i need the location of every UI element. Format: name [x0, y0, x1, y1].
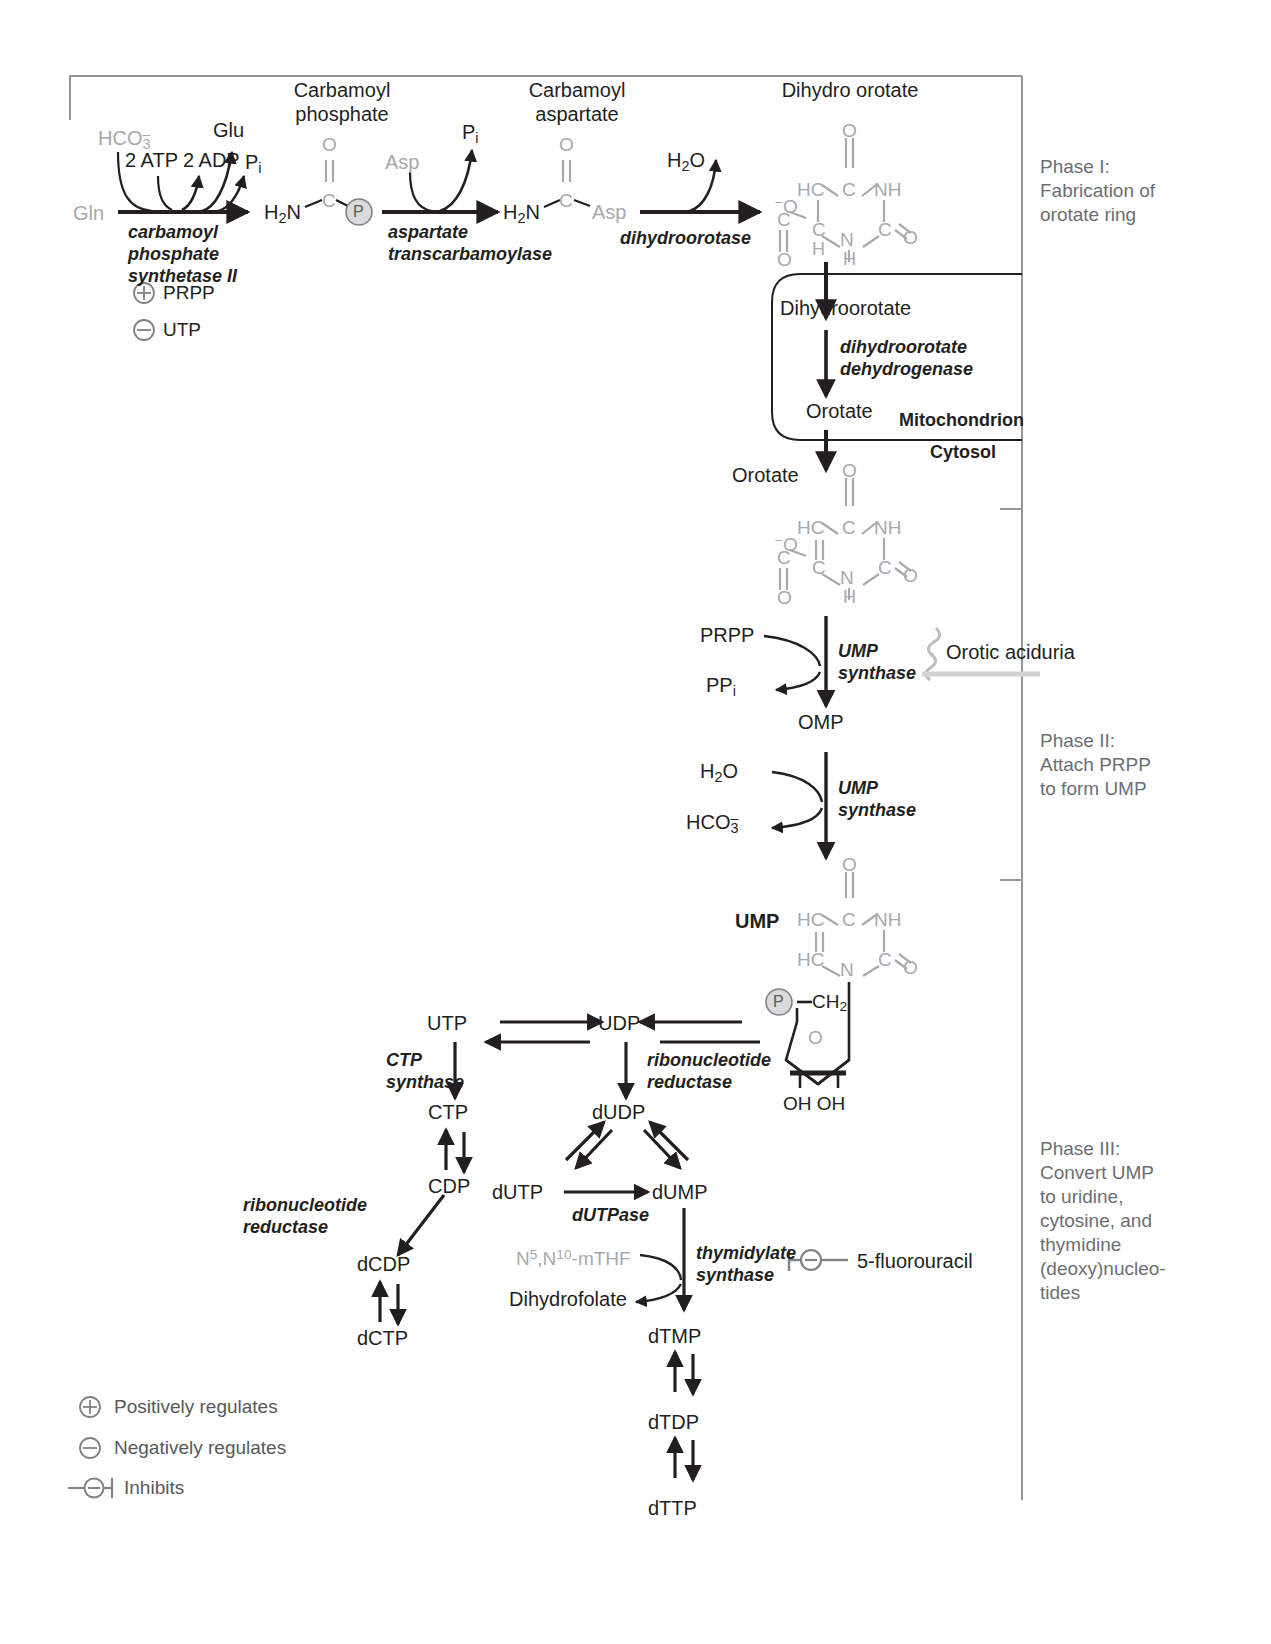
- oro-o-right: O: [903, 564, 918, 587]
- dho-c5: C: [812, 218, 826, 241]
- orotic-aciduria-label: Orotic aciduria: [946, 640, 1075, 664]
- legend-plus-circle-icon: [80, 1397, 100, 1417]
- asp-structure-label: Asp: [592, 200, 626, 224]
- ump-hc5: HC: [797, 908, 824, 931]
- oro-c2: C: [842, 516, 856, 539]
- ump-label: UMP: [735, 909, 779, 933]
- dttp-node: dTTP: [648, 1496, 697, 1520]
- phosphate-letter-1: P: [353, 202, 364, 222]
- dihydro-orotate-title: Dihydro orotate: [755, 78, 945, 102]
- phase-dividers: [1000, 509, 1022, 880]
- structure-o-2: O: [559, 133, 574, 156]
- pi-label-2: Pi: [462, 120, 479, 147]
- regulator-prpp-label: PRPP: [163, 281, 215, 304]
- pyrimidine-synthesis-diagram: Carbamoyl phosphate Carbamoyl aspartate …: [0, 0, 1271, 1644]
- ribose-hydroxyls: OH OH: [783, 1092, 845, 1115]
- oro-hc: HC: [797, 516, 824, 539]
- ump-synthase-1-arrow: [764, 616, 826, 706]
- dho-h5: H: [812, 239, 825, 261]
- oro-nh: NH: [874, 516, 901, 539]
- water-in-label-2: H2O: [700, 759, 738, 786]
- two-atp-label: 2 ATP: [125, 148, 178, 172]
- bicarbonate-out-label: HCO3: [686, 810, 738, 837]
- structure-c-1: C: [322, 189, 336, 212]
- cdp-node: CDP: [428, 1174, 470, 1198]
- dho-nh: NH: [874, 178, 901, 201]
- ump-synthase-2-arrow: [772, 752, 826, 858]
- utp-node: UTP: [427, 1011, 467, 1035]
- prpp-in-label: PRPP: [700, 623, 754, 647]
- dho-h1: H: [843, 249, 856, 271]
- water-out-label-1: H2O: [667, 148, 705, 175]
- oro-carboxyl-c: C: [777, 546, 791, 569]
- structure-o-1: O: [322, 133, 337, 156]
- legend-minus-circle-icon: [80, 1438, 100, 1458]
- carbamoyl-aspartate-title: Carbamoyl aspartate: [512, 78, 642, 127]
- mito-dihydroorotate-label: Dihydroorotate: [780, 296, 911, 320]
- carbamoyl-phosphate-title: Carbamoyl phosphate: [277, 78, 407, 127]
- phase-2-label: Phase II: Attach PRPP to form UMP: [1040, 729, 1151, 801]
- dho-carboxyl-c: C: [777, 208, 791, 231]
- oro-h1: H: [843, 587, 856, 609]
- dcdp-dctp-equilibrium: [380, 1282, 398, 1324]
- cytosol-label: Cytosol: [930, 442, 996, 464]
- aspartate-transcarbamoylase-enzyme: aspartate transcarbamoylase: [388, 222, 552, 266]
- dump-node: dUMP: [652, 1180, 708, 1204]
- omp-label: OMP: [798, 710, 844, 734]
- dtmp-dtdp-equilibrium: [675, 1352, 693, 1394]
- dcdp-node: dCDP: [357, 1252, 410, 1276]
- h2n-label-1: H2N: [264, 200, 301, 227]
- ump-hc6: HC: [797, 948, 824, 971]
- dutpase-enzyme: dUTPase: [572, 1205, 649, 1227]
- ctp-node: CTP: [428, 1100, 468, 1124]
- oro-c5: C: [812, 556, 826, 579]
- ump-nh3: NH: [874, 908, 901, 931]
- dho-o-right: O: [903, 226, 918, 249]
- dutp-node: dUTP: [492, 1180, 543, 1204]
- structure-c-2: C: [559, 189, 573, 212]
- ump-o2: O: [903, 956, 918, 979]
- dho-o-top: O: [842, 119, 857, 142]
- mito-orotate-label: Orotate: [806, 399, 873, 423]
- two-adp-label: 2 ADP: [183, 148, 240, 172]
- mthf-label: N5,N10-mTHF: [516, 1247, 631, 1270]
- fluorouracil-inhibit-symbol: [789, 1249, 848, 1271]
- ump-n1: N: [840, 958, 854, 981]
- mitochondrion-label: Mitochondrion: [899, 410, 1024, 432]
- phosphate-letter-2: P: [773, 992, 784, 1012]
- ribonucleotide-reductase-enzyme-left: ribonucleotide reductase: [243, 1195, 367, 1239]
- legend-positively-regulates: Positively regulates: [114, 1396, 278, 1418]
- thymidylate-synthase-enzyme: thymidylate synthase: [696, 1243, 796, 1287]
- fluorouracil-label: 5-fluorouracil: [857, 1249, 973, 1273]
- cdp-dcdp-arrow: [398, 1195, 444, 1255]
- ribose-ring-o: O: [808, 1026, 823, 1049]
- h2n-label-2: H2N: [503, 200, 540, 227]
- ctp-synthase-enzyme: CTP synthase: [386, 1050, 464, 1094]
- dihydroorotase-enzyme: dihydroorotase: [620, 228, 751, 250]
- dho-c2: C: [842, 178, 856, 201]
- dudp-dump-equilibrium: [644, 1122, 688, 1168]
- ctp-cdp-equilibrium: [446, 1130, 464, 1172]
- legend-inhibits: Inhibits: [124, 1477, 184, 1499]
- ribonucleotide-reductase-enzyme-right: ribonucleotide reductase: [647, 1050, 771, 1094]
- regulator-utp-label: UTP: [163, 318, 201, 341]
- udp-node: UDP: [598, 1011, 640, 1035]
- oro-c6: C: [878, 556, 892, 579]
- phase-3-label: Phase III: Convert UMP to uridine, cytos…: [1040, 1137, 1166, 1305]
- phase-1-label: Phase I: Fabrication of orotate ring: [1040, 155, 1155, 227]
- dudp-node: dUDP: [592, 1100, 645, 1124]
- dho-n1: N: [840, 228, 854, 251]
- dho-hc: HC: [797, 178, 824, 201]
- ump-c2: C: [878, 948, 892, 971]
- dtdp-node: dTDP: [648, 1410, 699, 1434]
- ppi-out-label: PPi: [706, 673, 736, 700]
- legend-inhibit-icon: [68, 1478, 112, 1498]
- oro-carboxyl-o-bottom: O: [777, 586, 792, 609]
- ch2-label: CH2: [812, 990, 847, 1016]
- dihydrofolate-node: Dihydrofolate: [509, 1287, 627, 1311]
- glu-label: Glu: [213, 118, 244, 142]
- utp-udp-equilibrium-arrows: [486, 1022, 602, 1042]
- asp-in-label: Asp: [385, 150, 419, 174]
- gln-label: Gln: [73, 201, 104, 225]
- dtmp-node: dTMP: [648, 1324, 701, 1348]
